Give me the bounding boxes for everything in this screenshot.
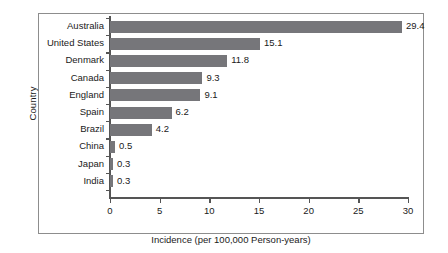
bar-value-label: 15.1 — [264, 37, 283, 49]
bar-row: 6.2Spain — [110, 104, 408, 121]
x-axis-tick-label: 15 — [254, 205, 265, 216]
bar — [110, 21, 402, 33]
bar-row: 4.2Brazil — [110, 121, 408, 138]
bar — [110, 55, 227, 67]
bar-value-label: 0.5 — [119, 140, 132, 152]
x-axis-tick — [160, 198, 161, 203]
y-axis-tick — [106, 52, 111, 53]
x-axis-tick — [358, 198, 359, 203]
bar-value-label: 9.3 — [206, 72, 219, 84]
bar — [110, 89, 200, 101]
bar-row: 0.3India — [110, 173, 408, 190]
bar-row: 0.3Japan — [110, 156, 408, 173]
y-axis-tick — [106, 104, 111, 105]
bar — [110, 38, 260, 50]
y-axis-tick — [106, 87, 111, 88]
y-axis-tick — [106, 70, 111, 71]
x-axis-tick-label: 10 — [204, 205, 215, 216]
category-label: Spain — [0, 105, 104, 118]
bar — [110, 141, 115, 153]
x-axis-tick — [408, 198, 409, 203]
x-axis-tick — [309, 198, 310, 203]
bar — [110, 72, 202, 84]
x-axis-tick-label: 20 — [303, 205, 314, 216]
chart-figure: Country 29.4Australia15.1United States11… — [0, 0, 448, 253]
y-axis-tick — [106, 121, 111, 122]
bar — [110, 158, 113, 170]
category-label: Canada — [0, 71, 104, 84]
x-axis-tick — [209, 198, 210, 203]
category-label: England — [0, 88, 104, 101]
bar-row: 29.4Australia — [110, 18, 408, 35]
bar-value-label: 0.3 — [117, 175, 130, 187]
bar — [110, 124, 152, 136]
category-label: China — [0, 139, 104, 152]
category-label: Brazil — [0, 122, 104, 135]
bar-value-label: 9.1 — [204, 89, 217, 101]
x-axis-title: Incidence (per 100,000 Person-years) — [38, 234, 424, 245]
y-axis-tick — [106, 173, 111, 174]
x-axis-tick-label: 5 — [157, 205, 162, 216]
bar-value-label: 0.3 — [117, 158, 130, 170]
bar-value-label: 11.8 — [231, 54, 249, 66]
y-axis-tick — [106, 18, 111, 19]
y-axis-tick — [106, 190, 111, 191]
bar-row: 15.1United States — [110, 35, 408, 52]
category-label: India — [0, 174, 104, 187]
bar-value-label: 6.2 — [176, 106, 189, 118]
category-label: Denmark — [0, 53, 104, 66]
bar — [110, 175, 113, 187]
x-axis-tick-label: 25 — [353, 205, 364, 216]
plot-area: 29.4Australia15.1United States11.8Denmar… — [110, 18, 408, 196]
y-axis-tick — [106, 138, 111, 139]
bar-row: 0.5China — [110, 138, 408, 155]
x-axis-tick-label: 30 — [403, 205, 414, 216]
bar-value-label: 29.4 — [406, 20, 425, 32]
x-axis-tick — [110, 198, 111, 203]
category-label: United States — [0, 36, 104, 49]
bar-row: 9.1England — [110, 87, 408, 104]
category-label: Australia — [0, 19, 104, 32]
bar-row: 9.3Canada — [110, 70, 408, 87]
bar-row: 11.8Denmark — [110, 52, 408, 69]
y-axis-tick — [106, 35, 111, 36]
y-axis-tick — [106, 156, 111, 157]
bar — [110, 107, 172, 119]
x-axis-tick — [259, 198, 260, 203]
x-axis-tick-label: 0 — [107, 205, 112, 216]
category-label: Japan — [0, 157, 104, 170]
bar-value-label: 4.2 — [156, 123, 169, 135]
